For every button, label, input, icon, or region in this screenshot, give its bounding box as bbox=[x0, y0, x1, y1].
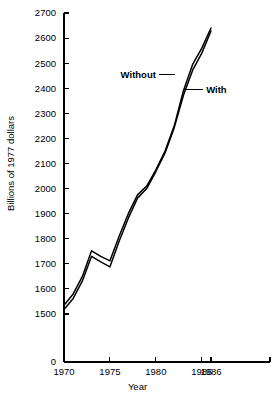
y-axis-ticks bbox=[64, 13, 69, 314]
with-annotation-label: With bbox=[206, 84, 227, 95]
y-tick-label-1900: 1900 bbox=[35, 208, 56, 219]
y-axis-tick-labels: 1500160017001800190020002100220023002400… bbox=[35, 7, 56, 319]
y-tick-label-1700: 1700 bbox=[35, 258, 56, 269]
y-tick-label-1600: 1600 bbox=[35, 283, 56, 294]
x-tick-label-1980: 1980 bbox=[145, 366, 166, 377]
y-tick-label-2500: 2500 bbox=[35, 58, 56, 69]
x-axis-title: Year bbox=[128, 381, 147, 392]
chart-container: 1500160017001800190020002100220023002400… bbox=[0, 0, 273, 396]
x-tick-label-1970: 1970 bbox=[53, 366, 74, 377]
x-tick-label-1975: 1975 bbox=[99, 366, 120, 377]
y-tick-label-2000: 2000 bbox=[35, 183, 56, 194]
y-axis-title: Billions of 1977 dollars bbox=[5, 116, 16, 211]
series-annotations: WithoutWith bbox=[121, 69, 227, 95]
without-annotation-label: Without bbox=[121, 69, 157, 80]
y-tick-label-2700: 2700 bbox=[35, 7, 56, 18]
x-axis-group: 19701975198019851986 bbox=[53, 357, 270, 377]
y-tick-label-2300: 2300 bbox=[35, 108, 56, 119]
y-tick-label-2100: 2100 bbox=[35, 158, 56, 169]
y-axis-group: 1500160017001800190020002100220023002400… bbox=[35, 7, 69, 367]
x-tick-label-1986: 1986 bbox=[200, 366, 221, 377]
y-tick-label-1500: 1500 bbox=[35, 308, 56, 319]
line-chart: 1500160017001800190020002100220023002400… bbox=[0, 0, 273, 396]
y-tick-label-2200: 2200 bbox=[35, 133, 56, 144]
y-tick-label-2400: 2400 bbox=[35, 83, 56, 94]
y-tick-label-2600: 2600 bbox=[35, 32, 56, 43]
y-tick-label-1800: 1800 bbox=[35, 233, 56, 244]
x-axis-ticks bbox=[64, 357, 270, 362]
x-axis-tick-labels: 19701975198019851986 bbox=[53, 366, 221, 377]
